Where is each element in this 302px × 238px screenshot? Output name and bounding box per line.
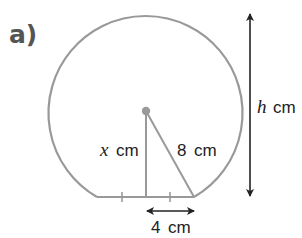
center-point [142, 107, 150, 115]
radius-label: 8 cm [177, 141, 217, 160]
perpendicular-var: x [99, 139, 109, 160]
height-label: h cm [257, 96, 296, 117]
height-unit: cm [273, 98, 296, 117]
radius-unit: cm [194, 141, 217, 160]
half-chord-label: 4 cm [151, 218, 191, 237]
height-var: h [257, 96, 267, 117]
radius-value: 8 [177, 141, 186, 160]
half-chord-value: 4 [151, 218, 160, 237]
perpendicular-unit: cm [116, 141, 139, 160]
perpendicular-label: x cm [99, 139, 139, 160]
half-chord-unit: cm [168, 218, 191, 237]
circle-segment-diagram: x cm 8 cm 4 cm h cm [0, 0, 302, 238]
